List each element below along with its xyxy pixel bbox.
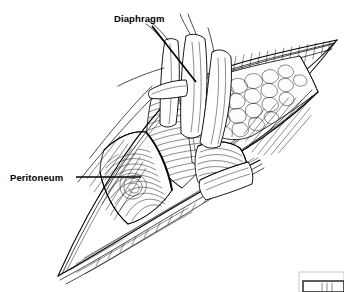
peritoneum-label-text: Peritoneum [10, 172, 63, 183]
anatomical-illustration-figure: Diaphragm Peritoneum [0, 0, 344, 292]
illustration-canvas: Diaphragm Peritoneum [0, 0, 344, 292]
diaphragm-label-text: Diaphragm [114, 13, 165, 24]
